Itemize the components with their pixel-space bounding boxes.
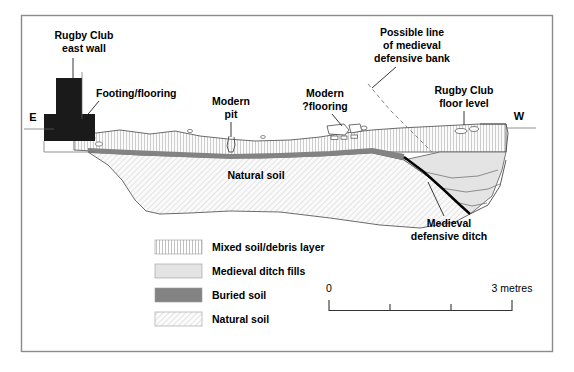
annotation-possible-bank: Possible line of medieval defensive bank [372,26,450,88]
legend-item-mixed-soil: Mixed soil/debris layer [155,240,325,254]
scale-end-label: 3 metres [492,282,533,294]
footing-flooring-label: Footing/flooring [96,87,176,99]
possible-bank-label-line1: Possible line [380,26,444,38]
legend-label-buried-soil: Buried soil [212,289,266,301]
rugby-club-east-wall-label-line1: Rugby Club [55,29,114,41]
legend-item-natural-soil: Natural soil [155,312,269,326]
legend: Mixed soil/debris layer Medieval ditch f… [155,240,325,326]
legend-item-ditch-fills: Medieval ditch fills [155,264,306,278]
modern-pit-label-line1: Modern [212,95,250,107]
natural-soil-inline-label: Natural soil [227,169,284,181]
annotation-rugby-club-east-wall: Rugby Club east wall [55,29,114,78]
annotation-rugby-club-floor-level: Rugby Club floor level [435,84,494,125]
annotation-footing-flooring: Footing/flooring [84,87,176,119]
rugby-club-floor-level-label-line1: Rugby Club [435,84,494,96]
modern-flooring-label-line1: Modern [306,87,344,99]
possible-bank-label-line3: defensive bank [374,52,450,64]
legend-label-ditch-fills: Medieval ditch fills [212,265,306,277]
compass-west-label: W [514,110,525,122]
scale-bar: 0 3 metres [326,282,532,311]
medieval-ditch-label-line2: defensive ditch [411,230,487,242]
annotation-modern-pit: Modern pit [212,95,250,137]
legend-item-buried-soil: Buried soil [155,288,266,302]
legend-label-natural-soil: Natural soil [212,313,269,325]
modern-flooring-label-line2: ?flooring [302,100,348,112]
rugby-club-floor-level-label-line2: floor level [439,97,489,109]
rugby-club-east-wall-label-line2: east wall [62,42,106,54]
legend-label-mixed-soil: Mixed soil/debris layer [212,241,325,253]
annotation-modern-flooring: Modern ?flooring [302,87,348,126]
medieval-ditch-label-line1: Medieval [427,217,471,229]
compass-east-label: E [29,111,36,123]
rugby-club-east-wall-structure [44,72,95,152]
section-drawing-figure: E W Rugby Club east wall Footing/floorin… [0,0,574,372]
possible-bank-label-line2: of medieval [383,39,441,51]
modern-pit-label-line2: pit [225,108,238,120]
compass-west: W [506,110,536,128]
scale-start-label: 0 [326,282,332,294]
